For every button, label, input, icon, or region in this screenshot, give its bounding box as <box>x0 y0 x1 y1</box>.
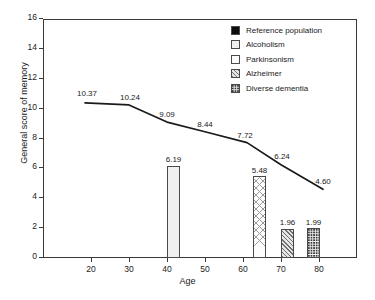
legend-swatch-alcoholism <box>231 40 240 49</box>
point-label-8-44: 8.44 <box>186 120 224 129</box>
legend-swatch-diverse-dementia <box>231 84 240 93</box>
memory-score-chart: 0 2 4 6 8 10 12 14 16 20 30 40 <box>0 0 375 300</box>
legend-label: Alcoholism <box>246 40 285 49</box>
legend-item-reference-population: Reference population <box>231 24 355 37</box>
legend-swatch-alzheimer <box>231 69 240 78</box>
legend-label: Reference population <box>246 26 322 35</box>
point-label-9-09: 9.09 <box>148 110 186 119</box>
legend: Reference population Alcoholism Parkinso… <box>231 24 355 97</box>
legend-label: Parkinsonism <box>246 55 294 64</box>
point-label-7-72: 7.72 <box>226 131 264 140</box>
point-label-4-60: 4.60 <box>304 177 342 186</box>
legend-swatch-reference-population <box>231 26 240 35</box>
legend-item-alcoholism: Alcoholism <box>231 39 355 52</box>
point-label-10-37: 10.37 <box>68 89 106 98</box>
legend-item-parkinsonism: Parkinsonism <box>231 53 355 66</box>
legend-label: Diverse dementia <box>246 84 308 93</box>
legend-item-diverse-dementia: Diverse dementia <box>231 82 355 95</box>
point-label-6-24: 6.24 <box>263 152 301 161</box>
legend-swatch-parkinsonism <box>231 55 240 64</box>
legend-label: Alzheimer <box>246 69 282 78</box>
legend-item-alzheimer: Alzheimer <box>231 68 355 81</box>
point-label-10-24: 10.24 <box>111 93 149 102</box>
